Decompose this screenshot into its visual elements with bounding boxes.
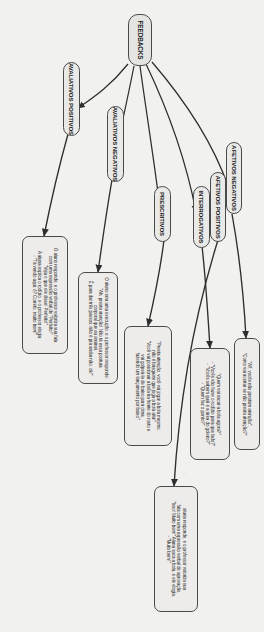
rotated-canvas-wrapper: FEEDBACKS AVALIATIVOS POSITIVOS AVALIATI… xyxy=(0,0,264,632)
node-category-afetivos-negativos[interactable]: AFETIVOS NEGATIVOS xyxy=(226,142,242,214)
node-example-avaliativos-negativos[interactable]: O aluno erra uma execução, e o professor… xyxy=(78,272,118,384)
category-label: INTERROGATIVOS xyxy=(198,191,205,244)
node-category-avaliativos-positivos[interactable]: AVALIATIVOS POSITIVOS xyxy=(63,62,80,136)
example-text: "Quem vai sacar a bola agora?" - "Vocês … xyxy=(199,362,220,446)
edge-root-to-interrogativos xyxy=(146,64,196,212)
category-label: AVALIATIVOS NEGATIVOS xyxy=(112,107,119,182)
edge-root-to-avaliativos-positivos xyxy=(78,64,128,108)
example-text: O aluno responde, e o professor valoriza… xyxy=(32,248,59,342)
category-label: AFETIVOS POSITIVOS xyxy=(214,175,221,238)
edge-afetivos-negativos-to-example xyxy=(232,214,246,338)
node-category-prescritivos[interactable]: PRESCRITIVOS xyxy=(154,186,171,242)
edge-avaliativos-positivos-to-example xyxy=(44,134,68,236)
node-example-afetivos-positivos[interactable]: aluna responde, e o professor valoriza s… xyxy=(154,486,198,612)
node-category-afetivos-positivos[interactable]: AFETIVOS POSITIVOS xyxy=(210,172,226,242)
node-example-interrogativos[interactable]: "Quem vai sacar a bola agora?" - "Vocês … xyxy=(190,348,230,460)
example-text: O aluno erra uma execução, e o professor… xyxy=(87,277,108,379)
example-text: "Presta atenção, você vai jogar a bola m… xyxy=(135,341,162,431)
example-text: "Aff, vocês não prestam atenção". "Como … xyxy=(242,353,253,436)
category-label: AVALIATIVOS POSITIVOS xyxy=(68,63,75,135)
node-example-prescritivos[interactable]: "Presta atenção, você vai jogar a bola m… xyxy=(124,326,172,446)
edge-interrogativos-to-example xyxy=(202,246,210,348)
edge-prescritivos-to-example xyxy=(148,240,164,326)
edge-avaliativos-negativos-to-example xyxy=(98,180,112,272)
node-category-interrogativos[interactable]: INTERROGATIVOS xyxy=(193,186,210,248)
diagram-page: FEEDBACKS AVALIATIVOS POSITIVOS AVALIATI… xyxy=(0,0,264,632)
root-label: FEEDBACKS xyxy=(136,21,144,60)
diagram-canvas: FEEDBACKS AVALIATIVOS POSITIVOS AVALIATI… xyxy=(0,0,264,632)
edge-root-to-afetivos xyxy=(152,62,228,186)
node-example-avaliativos-positivos[interactable]: O aluno responde, e o professor valoriza… xyxy=(22,236,68,354)
node-example-afetivos-negativos[interactable]: "Aff, vocês não prestam atenção". "Como … xyxy=(234,338,260,450)
node-feedbacks-root[interactable]: FEEDBACKS xyxy=(128,14,152,66)
category-label: AFETIVOS NEGATIVOS xyxy=(230,145,237,211)
example-text: aluna responde, e o professor valoriza s… xyxy=(165,501,186,597)
node-category-avaliativos-negativos[interactable]: AVALIATIVOS NEGATIVOS xyxy=(107,106,124,182)
category-label: PRESCRITIVOS xyxy=(159,192,166,236)
